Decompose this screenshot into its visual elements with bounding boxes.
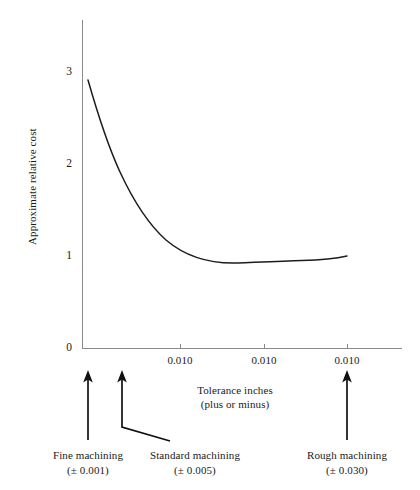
callout-standard-name: Standard machining bbox=[150, 449, 240, 461]
callout-fine-name: Fine machining bbox=[53, 449, 123, 461]
x-tick-label-3: 0.010 bbox=[317, 354, 377, 366]
callout-arrow-rough bbox=[342, 370, 352, 440]
x-tick-label-2: 0.010 bbox=[234, 354, 294, 366]
x-axis-title-line2: (plus or minus) bbox=[201, 398, 270, 410]
cost-curve bbox=[88, 80, 347, 263]
callout-standard-value: (± 0.005) bbox=[125, 463, 265, 478]
chart-figure: 3 2 1 0 0.010 0.010 0.010 Approximate re… bbox=[0, 0, 420, 490]
y-tick-label-3: 3 bbox=[50, 65, 72, 77]
y-tick-label-2: 2 bbox=[50, 157, 72, 169]
y-tick-label-1: 1 bbox=[50, 249, 72, 261]
callout-rough-value: (± 0.030) bbox=[283, 463, 411, 478]
x-axis-title: Tolerance inches (plus or minus) bbox=[135, 383, 335, 411]
callout-label-rough: Rough machining (± 0.030) bbox=[283, 448, 411, 477]
x-axis-title-line1: Tolerance inches bbox=[197, 384, 273, 396]
y-tick-label-0: 0 bbox=[50, 341, 72, 353]
callout-arrow-fine bbox=[83, 370, 93, 440]
callout-label-standard: Standard machining (± 0.005) bbox=[125, 448, 265, 477]
callout-rough-name: Rough machining bbox=[307, 449, 387, 461]
x-tick-label-1: 0.010 bbox=[150, 354, 210, 366]
y-axis-title: Approximate relative cost bbox=[26, 128, 38, 245]
